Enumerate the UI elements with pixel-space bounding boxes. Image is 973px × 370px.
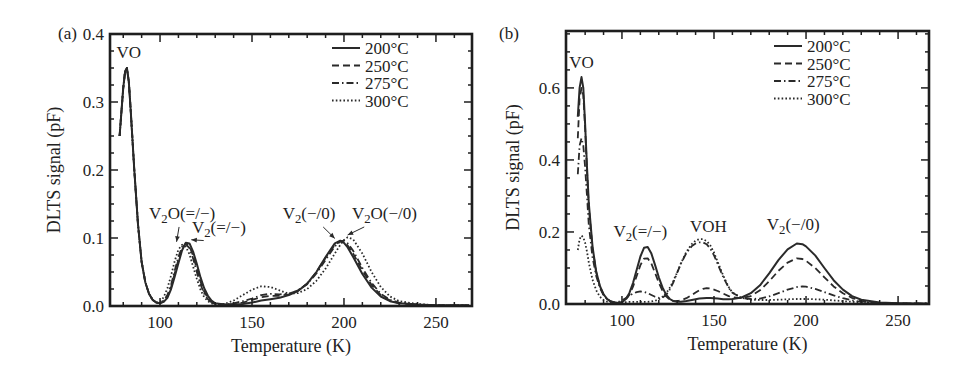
arrowhead-icon	[175, 236, 180, 242]
legend-item-label: 250°C	[807, 55, 851, 74]
x-axis-label: Temperature (K)	[231, 336, 351, 357]
panel-label: (b)	[499, 24, 519, 43]
y-tick-label: 0.4	[539, 151, 561, 170]
legend-item-label: 275°C	[807, 72, 851, 91]
x-tick-label: 250	[423, 313, 449, 332]
panel-b-dlts-chart: (b)1001502002500.00.20.40.6Temperature (…	[499, 24, 929, 355]
legend-item-label: 275°C	[365, 74, 409, 93]
annotation-v2o: V2O(=/−)	[149, 204, 215, 226]
x-tick-label: 200	[331, 313, 357, 332]
y-tick-label: 0.2	[83, 161, 104, 180]
y-tick-label: 0.1	[83, 229, 104, 248]
panel-a-dlts-chart: (a)1001502002500.00.10.20.30.4Temperatur…	[44, 24, 472, 357]
y-tick-label: 0.0	[539, 295, 560, 314]
legend-item-label: 250°C	[365, 57, 409, 76]
y-tick-label: 0.6	[539, 79, 560, 98]
legend-item-label: 200°C	[807, 37, 851, 56]
annotation-v2: V2(=/−)	[192, 218, 246, 240]
x-tick-label: 150	[701, 311, 727, 330]
annotation-v20: V2(−/0)	[767, 215, 820, 237]
legend: 200°C250°C275°C300°C	[774, 37, 851, 109]
x-tick-label: 100	[147, 313, 173, 332]
series-group	[120, 68, 470, 305]
arrowhead-icon	[191, 238, 197, 243]
panel-label: (a)	[58, 24, 77, 43]
plot-frame	[110, 34, 472, 306]
x-tick-label: 150	[239, 313, 265, 332]
y-tick-label: 0.2	[539, 223, 560, 242]
x-tick-label: 250	[885, 311, 911, 330]
x-tick-label: 100	[609, 311, 635, 330]
annotation-v2o0: V2O(−/0)	[352, 204, 417, 226]
y-tick-label: 0.4	[83, 25, 105, 44]
annotation-vo: VO	[569, 53, 594, 72]
series-line-200c	[578, 77, 928, 304]
legend-item-label: 300°C	[365, 92, 409, 111]
legend-item-label: 300°C	[807, 90, 851, 109]
x-tick-label: 200	[793, 311, 819, 330]
y-axis-label: DLTS signal (pF)	[44, 107, 65, 233]
series-line-275c	[578, 138, 928, 303]
y-axis-label: DLTS signal (pF)	[503, 104, 524, 230]
y-tick-label: 0.3	[83, 93, 104, 112]
legend: 200°C250°C275°C300°C	[332, 39, 409, 111]
series-group	[578, 77, 928, 304]
annotation-voh: VOH	[690, 217, 727, 236]
annotation-v2: V2(=/−)	[613, 222, 667, 244]
x-axis-label: Temperature (K)	[687, 334, 807, 355]
figure: (a)1001502002500.00.10.20.30.4Temperatur…	[0, 0, 973, 370]
annotation-v20: V2(−/0)	[283, 204, 336, 226]
y-tick-label: 0.0	[83, 297, 104, 316]
legend-item-label: 200°C	[365, 39, 409, 58]
plot-frame	[566, 31, 929, 304]
annotation-vo: VO	[116, 43, 141, 62]
series-line-250c	[578, 88, 928, 304]
series-line-300c	[120, 68, 470, 305]
